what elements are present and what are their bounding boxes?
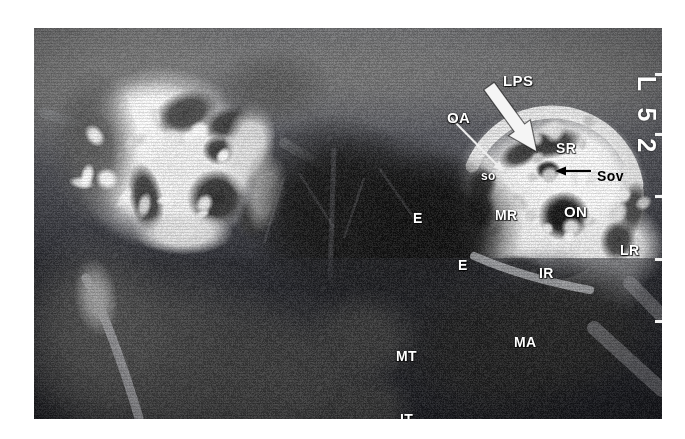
label-lps: LPS — [503, 73, 533, 88]
mri-scan-plate: LPSOAsoSRSovONMRLRIREEMAMTIT L 5 2 — [34, 28, 662, 419]
label-ma: MA — [514, 335, 537, 349]
label-ir: IR — [539, 266, 554, 280]
label-sr: SR — [556, 141, 576, 155]
figure-root: LPSOAsoSRSovONMRLRIREEMAMTIT L 5 2 — [0, 0, 685, 439]
label-mr: MR — [495, 208, 518, 222]
label-sov: Sov — [597, 169, 624, 183]
label-e2: E — [458, 258, 468, 272]
calibration-tick-4 — [655, 320, 662, 323]
label-on: ON — [564, 204, 587, 219]
mri-scan-image — [34, 28, 662, 419]
orientation-marker: L 5 2 — [634, 60, 660, 172]
calibration-tick-2 — [655, 195, 662, 198]
label-mt: MT — [396, 349, 417, 363]
label-so: so — [481, 170, 496, 182]
calibration-tick-3 — [655, 258, 662, 261]
orientation-marker-text: L 5 2 — [635, 75, 660, 157]
label-oa: OA — [447, 110, 470, 125]
label-lr: LR — [620, 243, 639, 257]
label-it: IT — [400, 412, 413, 419]
label-e1: E — [413, 211, 423, 225]
